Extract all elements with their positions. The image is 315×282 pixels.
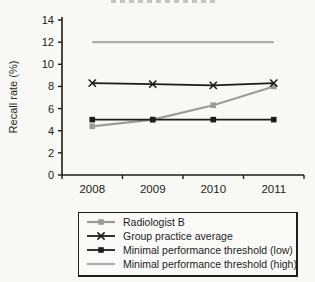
legend-label: Radiologist B [123, 216, 185, 228]
y-tick-label: 2 [48, 147, 54, 159]
y-tick-label: 10 [42, 58, 54, 70]
square-marker [210, 117, 216, 123]
square-marker [150, 117, 156, 123]
legend-swatch-square-line [86, 244, 116, 256]
x-tick-label: 2010 [200, 183, 226, 195]
x-tick-label: 2008 [79, 183, 105, 195]
chart-figure: Recall rate (%) 024681012142008200920102… [0, 0, 315, 282]
chart-plot: 024681012142008200920102011 [0, 0, 315, 208]
y-tick-label: 6 [48, 103, 54, 115]
legend-swatch-plain-line [86, 258, 116, 270]
legend-swatch-square-line [86, 216, 116, 228]
legend-label: Minimal performance threshold (high) [123, 258, 297, 270]
legend-item: Radiologist B [86, 215, 296, 229]
square-marker [89, 117, 95, 123]
legend-label: Group practice average [123, 230, 233, 242]
legend-label: Minimal performance threshold (low) [123, 244, 293, 256]
x-tick-label: 2011 [261, 183, 286, 195]
x-tick-label: 2009 [140, 183, 166, 195]
series-line [92, 83, 274, 85]
legend-item: Minimal performance threshold (high) [86, 257, 296, 271]
legend-item: Group practice average [86, 229, 296, 243]
y-tick-label: 8 [48, 80, 54, 92]
y-tick-label: 4 [48, 125, 54, 137]
square-marker [271, 117, 277, 123]
square-marker [210, 102, 216, 108]
legend: Radiologist BGroup practice averageMinim… [78, 212, 298, 277]
y-tick-label: 14 [42, 14, 54, 26]
y-tick-label: 0 [48, 169, 54, 181]
square-marker [89, 123, 95, 129]
y-tick-label: 12 [42, 36, 54, 48]
legend-item: Minimal performance threshold (low) [86, 243, 296, 257]
legend-swatch-x-line [86, 230, 116, 242]
